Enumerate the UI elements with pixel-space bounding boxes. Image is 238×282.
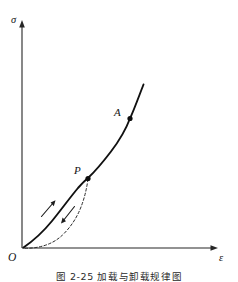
x-axis-arrowhead	[211, 245, 219, 251]
point-label-p: P	[73, 164, 81, 176]
loading-direction-arrow-shaft	[42, 203, 54, 217]
x-axis-label: ε	[219, 252, 224, 263]
stress-strain-plot: σ ε O P A	[0, 0, 238, 282]
figure-caption: 图 2-25 加载与卸载规律图	[0, 271, 238, 282]
loading-curve-path	[24, 85, 144, 248]
point-label-a: A	[113, 106, 121, 118]
point-marker-p	[85, 176, 90, 181]
stress-strain-figure: σ ε O P A 图 2-25 加载与卸载规律图	[0, 0, 238, 282]
point-marker-a	[127, 116, 132, 121]
unloading-direction-arrow-shaft	[63, 207, 75, 222]
y-axis-label: σ	[11, 14, 17, 25]
y-axis-arrowhead	[19, 20, 25, 28]
unloading-curve-path	[25, 179, 89, 248]
origin-label: O	[8, 251, 17, 263]
